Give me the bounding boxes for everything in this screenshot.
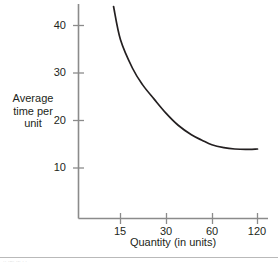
y-axis-title-line-2: time per bbox=[4, 105, 62, 118]
footer-smudge-text: ·· ·--· ·-· · · bbox=[3, 259, 123, 264]
x-axis-title: Quantity (in units) bbox=[78, 236, 268, 248]
y-axis-title: Average time per unit bbox=[4, 92, 62, 130]
chart-figure: 40 30 20 10 15 30 60 120 Average time pe… bbox=[0, 0, 278, 266]
y-tick-label-10: 10 bbox=[40, 162, 66, 173]
y-axis-title-line-3: unit bbox=[4, 117, 62, 130]
footer-divider bbox=[0, 257, 278, 258]
y-tick-label-40: 40 bbox=[40, 20, 66, 31]
learning-curve-line bbox=[114, 7, 258, 150]
y-axis-title-line-1: Average bbox=[4, 92, 62, 105]
chart-canvas bbox=[0, 0, 278, 266]
y-tick-label-30: 30 bbox=[40, 67, 66, 78]
